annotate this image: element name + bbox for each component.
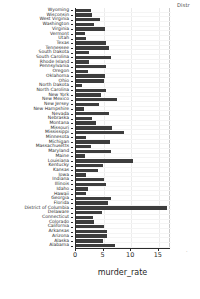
bar — [76, 13, 92, 16]
bar — [76, 98, 117, 101]
bar — [76, 136, 86, 139]
y-axis-tick — [71, 15, 74, 16]
bar — [76, 244, 115, 247]
bar — [76, 103, 99, 106]
x-axis-tick-label: 0 — [73, 251, 77, 259]
bar — [76, 164, 103, 167]
x-axis-ticks: 051015 — [0, 248, 200, 268]
y-axis-tick — [71, 76, 74, 77]
y-axis-tick — [71, 217, 74, 218]
y-axis-tick — [71, 128, 74, 129]
bar — [76, 145, 91, 148]
bar — [76, 187, 88, 190]
y-axis-tick — [71, 227, 74, 228]
bar — [76, 89, 106, 92]
bar — [76, 230, 107, 233]
y-axis-tick — [71, 156, 74, 157]
y-axis-tick — [71, 203, 74, 204]
bar — [76, 154, 85, 157]
y-axis-labels: WyomingWisconsinWest VirginiaWashingtonV… — [0, 8, 73, 248]
bar — [76, 206, 167, 209]
y-axis-tick — [71, 246, 74, 247]
y-axis-tick — [71, 100, 74, 101]
y-axis-tick — [71, 170, 74, 171]
y-axis-tick — [71, 72, 74, 73]
y-axis-tick — [71, 180, 74, 181]
y-axis-tick — [71, 53, 74, 54]
plot-area — [75, 8, 170, 248]
y-axis-tick — [71, 10, 74, 11]
bar — [76, 173, 86, 176]
bar — [76, 56, 111, 59]
bar — [76, 234, 107, 237]
y-axis-tick — [71, 24, 74, 25]
bar — [76, 211, 102, 214]
bar — [76, 37, 86, 40]
x-axis-tick-label: 15 — [154, 251, 162, 259]
bar — [76, 18, 100, 21]
bar — [76, 140, 110, 143]
y-axis-tick — [71, 34, 74, 35]
bar — [76, 201, 108, 204]
y-axis-tick — [71, 29, 74, 30]
y-axis-tick — [71, 90, 74, 91]
bar — [76, 51, 89, 54]
y-axis-tick — [71, 39, 74, 40]
y-axis-tick — [71, 123, 74, 124]
y-axis-tick — [71, 175, 74, 176]
bar — [76, 121, 96, 124]
bar — [76, 192, 86, 195]
bar — [76, 65, 106, 68]
bar — [76, 220, 94, 223]
bar — [76, 27, 105, 30]
y-axis-tick — [71, 184, 74, 185]
bar — [76, 150, 111, 153]
bar — [76, 70, 88, 73]
bar — [76, 9, 91, 12]
bar — [76, 84, 82, 87]
bar — [76, 60, 89, 63]
bar — [76, 46, 109, 49]
bar — [76, 107, 84, 110]
y-axis-tick — [71, 57, 74, 58]
bar — [76, 197, 111, 200]
bar — [76, 41, 106, 44]
y-axis-tick — [71, 152, 74, 153]
bar — [76, 131, 124, 134]
bar — [76, 93, 101, 96]
bar — [76, 159, 133, 162]
y-axis-tick — [71, 114, 74, 115]
y-axis-tick — [71, 194, 74, 195]
y-axis-tick — [71, 232, 74, 233]
y-axis-tick — [71, 189, 74, 190]
x-axis-tick-label: 10 — [126, 251, 134, 259]
bar — [76, 79, 104, 82]
y-axis-tick — [71, 43, 74, 44]
bar — [76, 112, 109, 115]
y-axis-tick — [71, 133, 74, 134]
y-axis-tick — [71, 95, 74, 96]
y-axis-tick — [71, 62, 74, 63]
bar — [76, 225, 104, 228]
bar — [76, 169, 98, 172]
bar — [76, 74, 105, 77]
y-axis-tick — [71, 104, 74, 105]
bar — [76, 126, 112, 129]
y-axis-tick — [71, 137, 74, 138]
y-axis-tick — [71, 213, 74, 214]
y-axis-tick — [71, 147, 74, 148]
y-axis-tick — [71, 222, 74, 223]
y-axis-tick — [71, 119, 74, 120]
chart-root: Distr · WyomingWisconsinWest VirginiaWas… — [0, 0, 200, 299]
y-axis-tick — [71, 236, 74, 237]
bar — [76, 23, 94, 26]
y-axis-tick — [71, 161, 74, 162]
y-axis-tick — [71, 241, 74, 242]
bar — [76, 117, 92, 120]
bar-series — [76, 8, 169, 248]
y-axis-tick — [71, 142, 74, 143]
truncated-title: Distr — [177, 2, 190, 8]
bar — [76, 216, 93, 219]
y-axis-tick — [71, 48, 74, 49]
y-axis-tick — [71, 20, 74, 21]
